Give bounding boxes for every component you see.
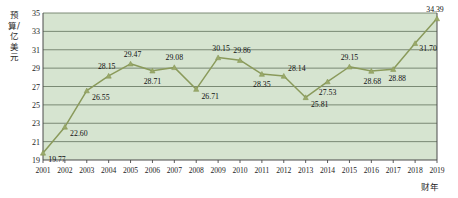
- x-tick-label: 2016: [364, 166, 379, 175]
- x-tick-label: 2008: [189, 166, 204, 175]
- data-point-label: 29.08: [166, 53, 184, 62]
- data-point-label: 28.88: [388, 74, 406, 83]
- x-tick-label: 2011: [254, 166, 269, 175]
- x-tick-label: 2018: [408, 166, 423, 175]
- x-tick-label: 2012: [276, 166, 291, 175]
- data-point-label: 29.86: [233, 46, 251, 55]
- x-tick-label: 2014: [320, 166, 335, 175]
- line-chart: 预算/亿美元: [0, 0, 458, 198]
- x-tick-label: 2009: [211, 166, 226, 175]
- x-axis-title: 财年: [421, 180, 439, 192]
- data-point-label: 26.55: [92, 92, 110, 101]
- x-tick-label: 2006: [145, 166, 160, 175]
- x-tick-label: 2005: [123, 166, 138, 175]
- data-point-label: 28.35: [253, 80, 271, 89]
- data-point-label: 22.60: [70, 128, 88, 137]
- data-point-label: 19.77: [48, 154, 66, 163]
- data-point-label: 25.81: [311, 100, 329, 109]
- x-tick-label: 2017: [386, 166, 401, 175]
- data-point-label: 29.47: [124, 49, 142, 58]
- data-point-label: 28.14: [288, 64, 306, 73]
- x-tick-label: 2015: [342, 166, 357, 175]
- x-tick-label: 2013: [298, 166, 313, 175]
- x-tick-label: 2007: [167, 166, 182, 175]
- x-tick-label: 2004: [101, 166, 116, 175]
- data-point-label: 30.15: [212, 43, 230, 52]
- data-point-label: 29.15: [341, 52, 359, 61]
- data-point-label: 28.71: [144, 76, 162, 85]
- data-point-label: 26.71: [201, 92, 219, 101]
- x-tick-label: 2001: [35, 166, 50, 175]
- x-axis-ticks: 2001200220032004200520062007200820092010…: [0, 0, 458, 198]
- data-point-label: 31.70: [419, 44, 437, 53]
- x-tick-label: 2019: [429, 166, 444, 175]
- data-point-label: 28.15: [98, 61, 116, 70]
- data-point-label: 34.39: [426, 4, 444, 13]
- x-tick-label: 2002: [57, 166, 72, 175]
- x-tick-label: 2003: [79, 166, 94, 175]
- x-tick-label: 2010: [232, 166, 247, 175]
- data-point-label: 27.53: [319, 87, 337, 96]
- data-point-label: 28.68: [364, 77, 382, 86]
